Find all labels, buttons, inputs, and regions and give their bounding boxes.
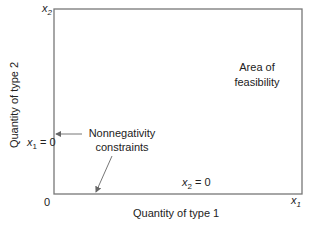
x-axis-title: Quantity of type 1 (133, 207, 219, 219)
x2-zero-label: x2 = 0 (182, 176, 211, 191)
feasibility-box (54, 9, 302, 194)
arrow-to-x2-axis (96, 156, 112, 192)
x-axis-end-label: x1 (291, 194, 301, 209)
nonnegativity-label: Nonnegativity constraints (85, 126, 159, 154)
y-axis-end-label: x2 (42, 2, 52, 17)
y-axis-title: Quantity of type 2 (8, 55, 20, 155)
origin-label: 0 (44, 196, 50, 208)
x1-zero-label: x1 = 0 (27, 136, 56, 151)
feasibility-label: Area of feasibility (222, 60, 292, 90)
